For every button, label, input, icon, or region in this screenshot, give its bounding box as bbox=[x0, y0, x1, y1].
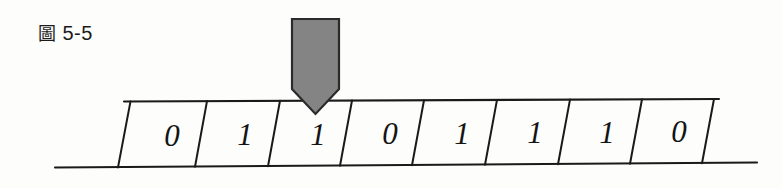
tape-divider-7 bbox=[630, 99, 642, 164]
tape-bottom-rail bbox=[55, 163, 757, 168]
tape-cell-value-3: 1 bbox=[310, 117, 326, 152]
tape-cell-value-4: 0 bbox=[382, 116, 398, 151]
tape-divider-8 bbox=[702, 99, 714, 163]
tape-cell-value-5: 1 bbox=[454, 116, 470, 151]
tape-divider-2 bbox=[268, 101, 280, 167]
tape-cell-value-1: 0 bbox=[164, 118, 180, 153]
tape-top-rail bbox=[124, 99, 719, 102]
tape-cell-value-8: 0 bbox=[671, 114, 687, 149]
tape-divider-6 bbox=[558, 100, 570, 165]
tape-divider-5 bbox=[485, 100, 497, 165]
tape-divider-0 bbox=[118, 101, 131, 167]
tape-cell-value-6: 1 bbox=[527, 115, 543, 150]
tape-cell-value-7: 1 bbox=[599, 115, 615, 150]
tape-divider-3 bbox=[340, 101, 352, 166]
tape-divider-4 bbox=[412, 100, 424, 165]
tape-diagram: 0 1 1 0 1 1 1 0 bbox=[0, 0, 782, 188]
figure-container: 圖 5-5 0 1 1 0 1 1 1 0 bbox=[0, 0, 782, 188]
tape-divider-1 bbox=[195, 101, 207, 167]
tape-cell-value-2: 1 bbox=[237, 117, 253, 152]
